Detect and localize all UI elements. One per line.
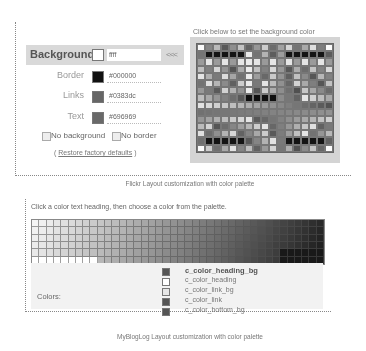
palette-cell[interactable] [277, 51, 285, 58]
palette-cell[interactable] [221, 145, 229, 152]
palette-cell[interactable] [237, 58, 245, 65]
palette-cell[interactable] [83, 242, 90, 249]
palette-cell[interactable] [269, 87, 277, 94]
palette-cell[interactable] [222, 227, 229, 234]
palette-cell[interactable] [253, 116, 261, 123]
palette-cell[interactable] [205, 73, 213, 80]
palette-cell[interactable] [120, 249, 127, 256]
palette-cell[interactable] [178, 235, 185, 242]
palette-cell[interactable] [325, 137, 333, 144]
palette-cell[interactable] [54, 235, 61, 242]
links-swatch[interactable] [92, 91, 104, 103]
palette-cell[interactable] [163, 242, 170, 249]
palette-cell[interactable] [325, 51, 333, 58]
palette-cell[interactable] [178, 242, 185, 249]
palette-cell[interactable] [197, 66, 205, 73]
palette-cell[interactable] [253, 87, 261, 94]
palette-cell[interactable] [325, 58, 333, 65]
palette-cell[interactable] [253, 73, 261, 80]
palette-cell[interactable] [105, 235, 112, 242]
color-item-link-bg[interactable]: c_color_link_bg [185, 286, 234, 293]
palette-cell[interactable] [215, 249, 222, 256]
palette-cell[interactable] [229, 145, 237, 152]
palette-cell[interactable] [309, 44, 317, 51]
palette-cell[interactable] [317, 58, 325, 65]
palette-cell[interactable] [205, 66, 213, 73]
palette-cell[interactable] [317, 145, 325, 152]
palette-cell[interactable] [317, 102, 325, 109]
palette-cell[interactable] [317, 123, 325, 130]
palette-cell[interactable] [269, 44, 277, 51]
palette-cell[interactable] [245, 109, 253, 116]
palette-cell[interactable] [197, 123, 205, 130]
palette-cell[interactable] [39, 227, 46, 234]
palette-cell[interactable] [309, 249, 316, 256]
palette-cell[interactable] [273, 242, 280, 249]
palette-cell[interactable] [325, 80, 333, 87]
palette-cell[interactable] [163, 249, 170, 256]
palette-cell[interactable] [261, 123, 269, 130]
palette-cell[interactable] [197, 116, 205, 123]
palette-cell[interactable] [261, 73, 269, 80]
palette-cell[interactable] [317, 137, 325, 144]
palette-cell[interactable] [229, 58, 237, 65]
palette-cell[interactable] [301, 80, 309, 87]
palette-cell[interactable] [61, 235, 68, 242]
palette-cell[interactable] [277, 73, 285, 80]
palette-cell[interactable] [229, 227, 236, 234]
palette-cell[interactable] [301, 73, 309, 80]
palette-cell[interactable] [142, 242, 149, 249]
palette-cell[interactable] [244, 249, 251, 256]
palette-cell[interactable] [134, 220, 141, 227]
palette-cell[interactable] [213, 80, 221, 87]
palette-cell[interactable] [295, 235, 302, 242]
palette-cell[interactable] [269, 123, 277, 130]
palette-cell[interactable] [280, 227, 287, 234]
palette-cell[interactable] [245, 66, 253, 73]
palette-cell[interactable] [61, 242, 68, 249]
palette-cell[interactable] [134, 235, 141, 242]
palette-cell[interactable] [277, 102, 285, 109]
palette-cell[interactable] [134, 242, 141, 249]
palette-cell[interactable] [285, 137, 293, 144]
palette-cell[interactable] [309, 235, 316, 242]
palette-cell[interactable] [200, 242, 207, 249]
palette-cell[interactable] [269, 137, 277, 144]
palette-cell[interactable] [293, 73, 301, 80]
link-swatch[interactable] [162, 298, 170, 306]
palette-cell[interactable] [54, 227, 61, 234]
palette-cell[interactable] [205, 58, 213, 65]
palette-cell[interactable] [261, 130, 269, 137]
palette-cell[interactable] [127, 242, 134, 249]
palette-cell[interactable] [253, 137, 261, 144]
palette-cell[interactable] [273, 220, 280, 227]
palette-cell[interactable] [317, 242, 324, 249]
palette-cell[interactable] [213, 130, 221, 137]
color-item-bottom-bg[interactable]: c_color_bottom_bg [185, 306, 245, 313]
palette-cell[interactable] [185, 220, 192, 227]
palette-cell[interactable] [163, 227, 170, 234]
palette-cell[interactable] [197, 109, 205, 116]
palette-cell[interactable] [207, 220, 214, 227]
palette-cell[interactable] [269, 66, 277, 73]
palette-cell[interactable] [245, 130, 253, 137]
palette-cell[interactable] [171, 227, 178, 234]
palette-cell[interactable] [293, 123, 301, 130]
palette-cell[interactable] [277, 109, 285, 116]
palette-cell[interactable] [285, 80, 293, 87]
palette-cell[interactable] [207, 249, 214, 256]
palette-cell[interactable] [269, 102, 277, 109]
palette-cell[interactable] [213, 44, 221, 51]
palette-cell[interactable] [245, 123, 253, 130]
palette-cell[interactable] [163, 220, 170, 227]
palette-cell[interactable] [325, 109, 333, 116]
apply-color-arrow-button[interactable]: <<< [166, 50, 177, 59]
palette-cell[interactable] [197, 145, 205, 152]
palette-cell[interactable] [295, 249, 302, 256]
palette-cell[interactable] [149, 235, 156, 242]
palette-cell[interactable] [149, 249, 156, 256]
palette-cell[interactable] [47, 235, 54, 242]
palette-cell[interactable] [221, 87, 229, 94]
palette-cell[interactable] [273, 227, 280, 234]
palette-cell[interactable] [285, 58, 293, 65]
